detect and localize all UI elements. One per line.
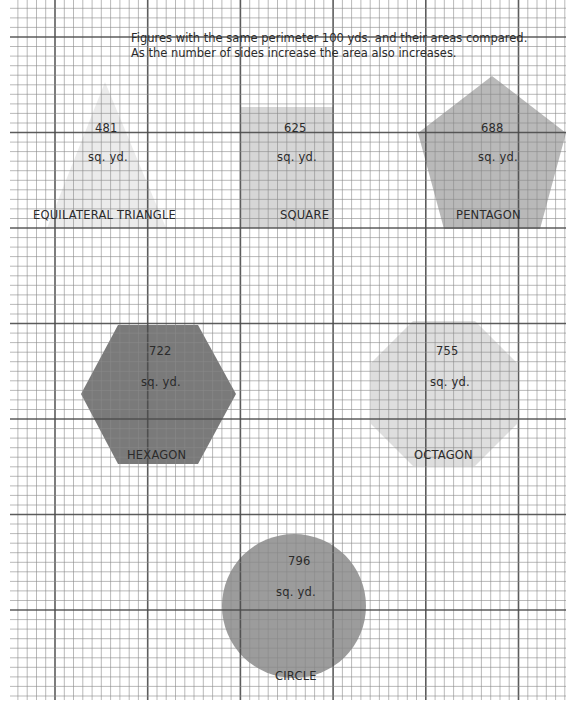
pentagon-unit: sq. yd.: [478, 150, 518, 164]
triangle-label: EQUILATERAL TRIANGLE: [33, 208, 176, 222]
circle-unit: sq. yd.: [276, 585, 316, 599]
hexagon-unit: sq. yd.: [141, 375, 181, 389]
square-label: SQUARE: [280, 208, 329, 222]
hexagon-area: 722: [149, 344, 172, 358]
octagon-unit: sq. yd.: [430, 375, 470, 389]
square-area: 625: [284, 121, 307, 135]
title-line-2: As the number of sides increase the area…: [131, 46, 457, 60]
title-line-1: Figures with the same perimeter 100 yds.…: [131, 31, 527, 45]
pentagon-area: 688: [481, 121, 504, 135]
hexagon-label: HEXAGON: [127, 448, 186, 462]
octagon-label: OCTAGON: [414, 448, 473, 462]
triangle-area: 481: [95, 121, 118, 135]
pentagon-label: PENTAGON: [456, 208, 521, 222]
square-unit: sq. yd.: [277, 150, 317, 164]
triangle-unit: sq. yd.: [88, 150, 128, 164]
octagon-area: 755: [436, 344, 459, 358]
circle-area: 796: [288, 554, 311, 568]
circle-label: CIRCLE: [275, 669, 317, 683]
